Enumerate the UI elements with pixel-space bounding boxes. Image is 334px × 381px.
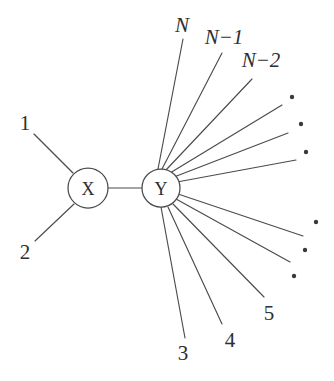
edge-leaf-3 [161, 207, 185, 338]
label-4: 4 [225, 328, 236, 352]
label-2: 2 [20, 240, 31, 264]
node-x[interactable]: X [68, 168, 108, 208]
node-x-label: X [82, 179, 95, 199]
edge-leaf-4 [168, 207, 222, 324]
ellipsis-dot-group [290, 95, 318, 278]
edge-leaf-dot-ur2 [174, 133, 288, 177]
label-5: 5 [264, 301, 275, 325]
dot-ur-2 [299, 122, 303, 126]
dot-lr-2 [303, 248, 307, 252]
node-y-label: Y [155, 179, 168, 199]
label-N-2: N−2 [241, 48, 281, 72]
edge-leaf-dot-lr1 [178, 194, 303, 236]
edge-leaf-dot-ur1 [170, 105, 282, 173]
edge-leaf-1 [34, 134, 73, 173]
edge-leaf-N1 [162, 53, 222, 169]
edge-leaf-N2 [166, 79, 252, 170]
graph-diagram: XY 12345NN−1N−2 [0, 0, 334, 381]
label-3: 3 [178, 341, 189, 365]
diagram-canvas: XY 12345NN−1N−2 [0, 0, 334, 381]
label-N-1: N−1 [204, 25, 244, 49]
dot-lr-3 [292, 274, 296, 278]
edge-leaf-dot-ur3 [177, 160, 296, 182]
edge-leaf-dot-lr2 [176, 199, 290, 262]
dot-ur-3 [304, 150, 308, 154]
label-N: N [174, 13, 190, 37]
edge-leaf-N [158, 39, 183, 169]
dot-ur-1 [290, 95, 294, 99]
node-y[interactable]: Y [142, 169, 180, 207]
dot-lr-1 [314, 220, 318, 224]
edge-leaf-2 [35, 204, 74, 241]
label-1: 1 [20, 111, 31, 135]
